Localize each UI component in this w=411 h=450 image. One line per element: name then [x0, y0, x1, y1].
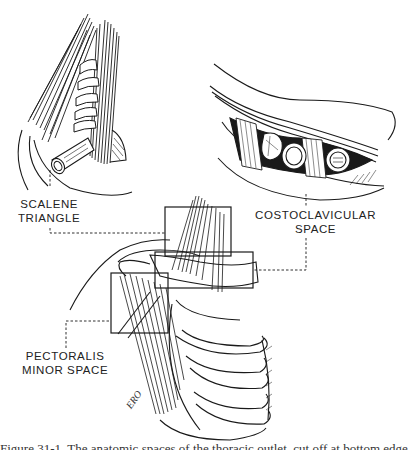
pectoralis-minor-space-label: PECTORALIS MINOR SPACE: [22, 349, 108, 377]
pectoralis-minor-space-box: [111, 273, 168, 333]
costoclavicular-space-label: COSTOCLAVICULAR SPACE: [255, 208, 376, 236]
costoclavicular-inset: [210, 64, 395, 200]
pectoralis-leader-line: [66, 321, 111, 348]
scalene-triangle-label: SCALENE TRIANGLE: [18, 197, 80, 225]
scalene-triangle-box: [165, 207, 231, 256]
scalene-triangle-inset: [18, 14, 132, 195]
figure-caption-partial: Figure 31-1. The anatomic spaces of the …: [0, 441, 411, 450]
